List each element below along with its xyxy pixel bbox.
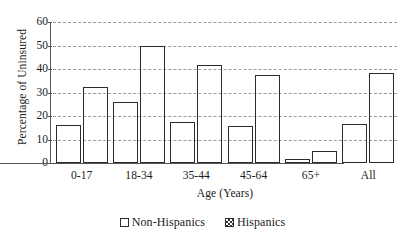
legend-swatch-icon xyxy=(225,218,234,227)
bar-hispanics-18-34 xyxy=(140,46,165,164)
y-axis-line xyxy=(50,22,51,164)
y-axis-tick-label: 50 xyxy=(24,40,48,52)
bar-non-hispanics-all xyxy=(342,124,367,163)
x-axis-tick-label: All xyxy=(340,167,397,183)
bar-group-35-44 xyxy=(168,22,225,163)
bar-non-hispanics-18-34 xyxy=(113,102,138,163)
y-axis-tick-label: 40 xyxy=(24,63,48,75)
x-axis-tick-label: 35-44 xyxy=(168,167,225,183)
x-axis-title: Age (Years) xyxy=(53,186,397,200)
x-axis-tick-label: 0-17 xyxy=(53,167,110,183)
legend-item-hispanics: Hispanics xyxy=(225,216,285,229)
x-axis-tick-labels: 0-17 18-34 35-44 45-64 65+ All xyxy=(53,167,397,183)
bar-group-all xyxy=(340,22,397,163)
bar-non-hispanics-45-64 xyxy=(228,126,253,163)
x-axis-tick-label: 65+ xyxy=(282,167,339,183)
chart-legend: Non-Hispanics Hispanics xyxy=(0,216,405,229)
bar-group-45-64 xyxy=(225,22,282,163)
bar-group-65 xyxy=(282,22,339,163)
bar-non-hispanics-35-44 xyxy=(170,122,195,163)
y-axis-tick-labels: 60 50 40 30 20 10 0 xyxy=(24,0,48,240)
legend-label: Non-Hispanics xyxy=(132,216,205,229)
bars-layer xyxy=(53,22,397,163)
bar-hispanics-0-17 xyxy=(83,87,108,163)
bar-chart: Percentage of Uninsured 60 50 40 30 20 1… xyxy=(0,0,405,240)
y-axis-tick-label: 20 xyxy=(24,110,48,122)
bar-hispanics-35-44 xyxy=(197,65,222,163)
x-axis-tick-label: 45-64 xyxy=(225,167,282,183)
bar-hispanics-all xyxy=(369,73,394,163)
y-axis-tick-label: 60 xyxy=(24,16,48,28)
bar-group-0-17 xyxy=(53,22,110,163)
legend-swatch-icon xyxy=(120,218,129,227)
x-axis-line xyxy=(0,163,344,164)
bar-group-18-34 xyxy=(110,22,167,163)
y-axis-tick-label: 10 xyxy=(24,134,48,146)
legend-label: Hispanics xyxy=(237,216,285,229)
bar-hispanics-45-64 xyxy=(255,75,280,163)
bar-hispanics-65 xyxy=(312,151,337,163)
bar-non-hispanics-0-17 xyxy=(56,125,81,163)
x-axis-tick-label: 18-34 xyxy=(110,167,167,183)
y-axis-tick-label: 30 xyxy=(24,87,48,99)
legend-item-non-hispanics: Non-Hispanics xyxy=(120,216,205,229)
